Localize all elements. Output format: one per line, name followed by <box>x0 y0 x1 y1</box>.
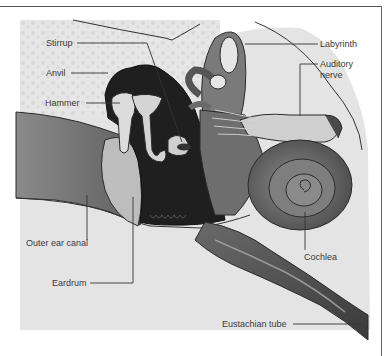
label-eustachian-tube: Eustachian tube <box>222 319 287 330</box>
label-labyrinth: Labyrinth <box>320 39 357 50</box>
label-anvil: Anvil <box>46 68 66 79</box>
stirrup-footplate <box>177 144 191 151</box>
label-cochlea: Cochlea <box>304 252 337 263</box>
label-stirrup: Stirrup <box>46 38 73 49</box>
label-outer-ear-canal: Outer ear canal <box>26 238 88 249</box>
ear-anatomy-diagram <box>0 0 387 356</box>
label-auditory-nerve-line2: nerve <box>320 70 343 81</box>
label-auditory-nerve-line1: Auditory <box>320 59 353 70</box>
label-eardrum: Eardrum <box>52 278 87 289</box>
label-hammer: Hammer <box>45 98 80 109</box>
cochlea-shape <box>248 140 352 230</box>
